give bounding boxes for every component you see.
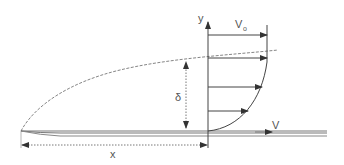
velocity-arrows (208, 35, 267, 111)
boundary-layer-edge (21, 50, 278, 131)
thickness-label: δ (175, 91, 181, 103)
boundary-layer-diagram: y V o V δ x (0, 0, 344, 165)
velocity-profile-curve (208, 62, 267, 131)
flat-plate (21, 131, 327, 136)
free-stream-velocity-label: V (235, 18, 243, 30)
distance-label: x (110, 148, 116, 160)
plate-velocity-label: V (272, 119, 280, 131)
free-stream-velocity-subscript: o (243, 25, 247, 32)
y-axis-label: y (198, 12, 204, 24)
